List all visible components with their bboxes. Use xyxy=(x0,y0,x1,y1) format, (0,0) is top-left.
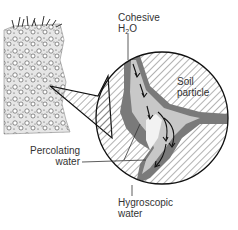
magnified-view xyxy=(96,52,228,184)
label-line: Hygroscopic xyxy=(118,197,173,208)
label-line: Percolating xyxy=(30,145,80,156)
label-cohesive-water: Cohesive H2O xyxy=(118,12,160,34)
label-part: O xyxy=(129,23,137,34)
label-line: water xyxy=(118,208,173,219)
label-hygroscopic-water: Hygroscopic water xyxy=(118,197,173,219)
label-line: water xyxy=(30,156,80,167)
label-line: H2O xyxy=(118,23,160,34)
label-percolating-water: Percolating water xyxy=(30,145,80,167)
label-line: Cohesive xyxy=(118,12,160,23)
label-line: Soil xyxy=(177,76,209,87)
label-line: particle xyxy=(177,87,209,98)
label-soil-particle: Soil particle xyxy=(177,76,209,98)
soil-water-diagram xyxy=(0,0,238,230)
soil-profile xyxy=(4,24,70,134)
